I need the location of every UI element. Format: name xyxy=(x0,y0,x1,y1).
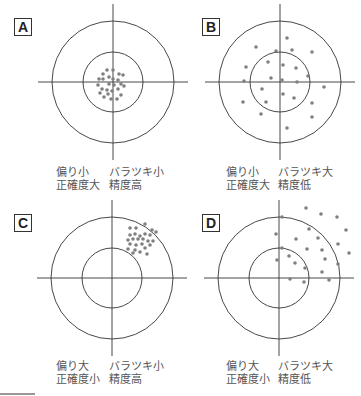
shot-dot xyxy=(347,251,351,255)
caption-spread-precision: バラツキ小精度高 xyxy=(109,166,164,192)
shot-dot xyxy=(327,278,331,282)
bias-text: 偏り小 xyxy=(226,166,270,179)
shot-dot xyxy=(266,60,270,64)
shot-dot xyxy=(275,258,279,262)
shot-dot xyxy=(146,239,150,243)
shot-dot xyxy=(242,79,246,83)
shot-dot xyxy=(322,85,326,89)
shot-dot xyxy=(112,83,116,87)
shot-dot xyxy=(102,95,106,99)
shot-dot xyxy=(304,206,308,210)
target-panel-d xyxy=(204,200,354,356)
shot-dot xyxy=(107,75,111,79)
panel-label-a: A xyxy=(14,18,32,36)
caption-spread-precision: バラツキ大精度低 xyxy=(278,360,333,386)
shot-dot xyxy=(259,112,263,116)
shot-dot xyxy=(109,97,113,101)
shot-dot xyxy=(128,233,132,237)
shot-dot xyxy=(140,242,144,246)
target-panel-b xyxy=(205,4,355,160)
shot-dot xyxy=(281,92,285,96)
shot-dot xyxy=(280,215,284,219)
shot-dot xyxy=(145,252,149,256)
shot-dot xyxy=(288,277,292,281)
shot-dot xyxy=(269,76,273,80)
shot-dot xyxy=(119,82,123,86)
shot-dot xyxy=(116,78,120,82)
shot-dot xyxy=(134,243,138,247)
shot-dot xyxy=(131,251,135,255)
precision-text: 精度低 xyxy=(278,179,333,192)
shot-dot xyxy=(133,232,137,236)
shot-dot xyxy=(98,91,102,95)
bias-text: 偏り大 xyxy=(56,360,100,373)
shot-dot xyxy=(294,237,298,241)
shot-dot xyxy=(295,80,299,84)
shot-dot xyxy=(280,246,284,250)
shot-dot xyxy=(148,233,152,237)
shot-dot xyxy=(143,222,147,226)
shot-dot xyxy=(290,48,294,52)
panel-label-d: D xyxy=(202,214,220,232)
shot-dot xyxy=(244,65,248,69)
shot-dot xyxy=(111,68,115,72)
shot-dot xyxy=(285,126,289,130)
spread-text: バラツキ小 xyxy=(109,166,164,179)
shot-dot xyxy=(128,226,132,230)
bias-text: 偏り小 xyxy=(56,166,100,179)
caption-bias-accuracy: 偏り小正確度大 xyxy=(226,166,270,192)
shot-dot xyxy=(307,227,311,231)
caption-bias-accuracy: 偏り小正確度大 xyxy=(56,166,100,192)
spread-text: バラツキ小 xyxy=(109,360,164,373)
shot-dot xyxy=(287,254,291,258)
bias-text: 偏り大 xyxy=(226,360,270,373)
target-panel-a xyxy=(38,4,188,160)
shot-dot xyxy=(344,228,348,232)
shot-dot xyxy=(138,234,142,238)
precision-text: 精度高 xyxy=(109,179,164,192)
accuracy-text: 正確度大 xyxy=(226,179,270,192)
shot-dot xyxy=(117,72,121,76)
shot-dot xyxy=(241,100,245,104)
shot-dot xyxy=(126,238,130,242)
shot-dot xyxy=(264,100,268,104)
precision-text: 精度高 xyxy=(109,373,164,386)
shot-dot xyxy=(151,239,155,243)
panel-label-c: C xyxy=(14,214,32,232)
shot-dot xyxy=(274,232,278,236)
shot-dot xyxy=(143,232,147,236)
shot-dot xyxy=(316,236,320,240)
shot-dot xyxy=(141,237,145,241)
shot-dot xyxy=(310,101,314,105)
shot-dot xyxy=(281,63,285,67)
shot-dot xyxy=(100,87,104,91)
accuracy-text: 正確度小 xyxy=(56,373,100,386)
shot-dot xyxy=(119,93,123,97)
shot-dot xyxy=(280,78,284,82)
shot-dot xyxy=(310,115,314,119)
spread-text: バラツキ大 xyxy=(278,360,333,373)
shot-dot xyxy=(154,230,158,234)
shot-dot xyxy=(302,280,306,284)
shot-dot xyxy=(97,77,101,81)
shot-dot xyxy=(148,243,152,247)
shot-dot xyxy=(336,242,340,246)
shot-dot xyxy=(335,215,339,219)
shot-dot xyxy=(292,96,296,100)
shot-dot xyxy=(319,212,323,216)
shot-dot xyxy=(105,68,109,72)
shot-dot xyxy=(134,226,138,230)
shot-dot xyxy=(336,262,340,266)
shot-dot xyxy=(115,97,119,101)
shot-dot xyxy=(274,49,278,53)
shot-dot xyxy=(320,248,324,252)
shot-dot xyxy=(111,77,115,81)
shot-dot xyxy=(294,66,298,70)
shot-dot xyxy=(138,250,142,254)
shot-dot xyxy=(101,72,105,76)
accuracy-text: 正確度大 xyxy=(56,179,100,192)
spread-text: バラツキ大 xyxy=(278,166,333,179)
caption-bias-accuracy: 偏り大正確度小 xyxy=(226,360,270,386)
shot-dot xyxy=(293,261,297,265)
target-panel-c xyxy=(37,200,187,356)
